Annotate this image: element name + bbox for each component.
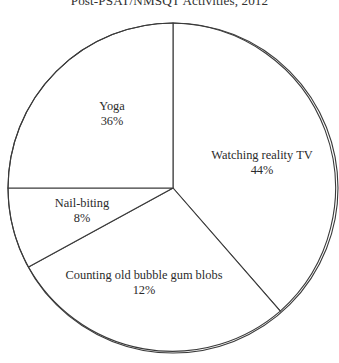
pie-label-yoga-name: Yoga: [57, 99, 167, 114]
pie-label-watching-reality-tv-name: Watching reality TV: [192, 148, 332, 163]
pie-label-yoga-percent: 36%: [57, 114, 167, 129]
pie-label-nail-biting: Nail-biting 8%: [24, 196, 140, 225]
pie-label-nail-biting-percent: 8%: [24, 211, 140, 226]
pie-label-counting-old-bubble-gum-blobs: Counting old bubble gum blobs 12%: [44, 268, 244, 297]
pie-label-watching-reality-tv-percent: 44%: [192, 163, 332, 178]
pie-label-yoga: Yoga 36%: [57, 99, 167, 128]
pie-chart-figure: Post-PSAT/NMSQT Activities, 2012 Yoga 36…: [0, 0, 339, 363]
pie-label-counting-old-bubble-gum-blobs-percent: 12%: [44, 283, 244, 298]
pie-label-nail-biting-name: Nail-biting: [24, 196, 140, 211]
pie-label-watching-reality-tv: Watching reality TV 44%: [192, 148, 332, 177]
pie-chart-graphic: [0, 0, 339, 363]
pie-label-counting-old-bubble-gum-blobs-name: Counting old bubble gum blobs: [44, 268, 244, 283]
